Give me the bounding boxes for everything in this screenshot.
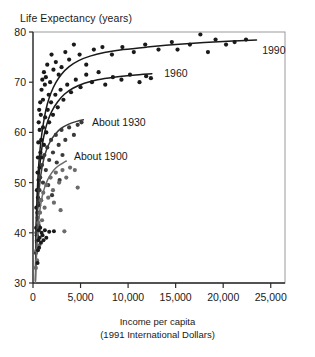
data-point	[72, 133, 76, 137]
data-point	[43, 228, 47, 232]
data-point	[67, 58, 71, 62]
data-point	[40, 78, 44, 82]
data-point	[45, 63, 49, 67]
data-point	[61, 98, 65, 102]
x-tick-label: 25,000	[255, 291, 287, 303]
data-point	[73, 168, 77, 172]
data-point	[213, 37, 217, 41]
data-point	[43, 83, 47, 87]
data-point	[100, 45, 104, 49]
data-point	[57, 181, 61, 185]
data-series-layer	[34, 32, 257, 283]
data-point	[67, 125, 71, 129]
data-point	[51, 68, 55, 72]
data-point	[57, 143, 61, 147]
x-axis-title-line2: (1991 International Dollars)	[0, 329, 315, 342]
y-tick-label: 60	[14, 126, 26, 138]
data-point	[119, 78, 123, 82]
data-point	[47, 158, 51, 162]
data-point	[84, 73, 88, 77]
x-axis-title: Income per capita (1991 International Do…	[0, 316, 315, 341]
data-point	[97, 70, 101, 74]
data-point	[60, 168, 64, 172]
x-tick-label: 15,000	[160, 291, 192, 303]
y-axis-ticks: 304050607080	[14, 26, 33, 289]
data-point	[38, 128, 42, 132]
x-tick-label: 20,000	[207, 291, 239, 303]
data-point	[103, 83, 107, 87]
data-point	[53, 93, 57, 97]
data-point	[143, 42, 147, 46]
y-tick-label: 70	[14, 76, 26, 88]
data-point	[149, 76, 153, 80]
series-1960	[34, 70, 153, 268]
data-point	[76, 123, 80, 127]
series-label-about-1900: About 1900	[74, 150, 128, 162]
data-point	[58, 208, 62, 212]
data-point	[137, 80, 141, 84]
data-point	[41, 98, 45, 102]
data-point	[37, 246, 41, 250]
data-point	[43, 206, 47, 210]
data-point	[44, 168, 48, 172]
data-point	[52, 229, 56, 233]
data-point	[84, 63, 88, 67]
data-point	[38, 226, 42, 230]
data-point	[74, 78, 78, 82]
data-point	[55, 160, 59, 164]
y-tick-label: 40	[14, 227, 26, 239]
data-point	[92, 47, 96, 51]
data-point	[63, 138, 67, 142]
data-point	[49, 52, 53, 56]
data-point	[63, 50, 67, 54]
data-point	[39, 113, 43, 117]
data-point	[170, 40, 174, 44]
plot-frame	[33, 32, 285, 283]
data-point	[51, 150, 55, 154]
y-tick-label: 30	[14, 277, 26, 289]
data-point	[76, 186, 80, 190]
data-point	[51, 188, 55, 192]
data-point	[41, 181, 45, 185]
series-label-about-1930: About 1930	[92, 116, 146, 128]
y-tick-label: 80	[14, 26, 26, 38]
data-point	[156, 47, 160, 51]
trend-curve	[36, 40, 257, 243]
series-label-layer: 19901960About 1930About 1900	[74, 44, 286, 162]
data-point	[44, 75, 48, 79]
data-point	[132, 50, 136, 54]
y-tick-label: 50	[14, 177, 26, 189]
data-point	[52, 201, 56, 205]
data-point	[68, 165, 72, 169]
x-tick-label: 10,000	[112, 291, 144, 303]
data-point	[175, 47, 179, 51]
data-point	[120, 45, 124, 49]
chart-canvas: 304050607080 05,00010,00015,00020,00025,…	[0, 0, 315, 357]
x-tick-label: 0	[30, 291, 36, 303]
data-point	[54, 60, 58, 64]
x-axis-ticks: 05,00010,00015,00020,00025,000	[30, 283, 287, 303]
data-point	[110, 52, 114, 56]
data-point	[50, 193, 54, 197]
data-point	[224, 42, 228, 46]
data-point	[62, 229, 66, 233]
data-point	[64, 175, 68, 179]
data-point	[39, 88, 43, 92]
data-point	[58, 88, 62, 92]
data-point	[59, 65, 63, 69]
data-point	[72, 42, 76, 46]
data-point	[36, 261, 40, 265]
data-point	[65, 83, 69, 87]
data-point	[43, 115, 47, 119]
data-point	[44, 236, 48, 240]
data-point	[56, 105, 60, 109]
plot-border	[33, 32, 285, 283]
data-point	[41, 233, 45, 237]
data-point	[46, 196, 50, 200]
series-label-1990: 1990	[262, 44, 286, 56]
data-point	[47, 230, 51, 234]
data-point	[206, 50, 210, 54]
data-point	[49, 100, 53, 104]
chart-figure: Life Expectancy (years) 304050607080 05,…	[0, 0, 315, 357]
data-point	[46, 108, 50, 112]
